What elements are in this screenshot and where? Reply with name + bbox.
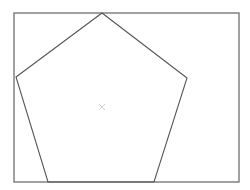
background (0, 0, 250, 190)
diagram-canvas (0, 0, 250, 190)
